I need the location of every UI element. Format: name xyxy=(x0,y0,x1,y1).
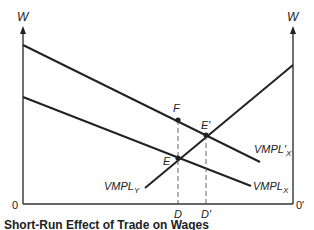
vmpl-y-label: VMPLY xyxy=(104,180,140,195)
vmpl-x-prime-label: VMPL′X xyxy=(254,143,292,158)
vmpl-x-label: VMPLX xyxy=(253,180,289,195)
svg-text:VMPLX: VMPLX xyxy=(253,180,289,195)
figure-caption: Short-Run Effect of Trade on Wages xyxy=(4,218,314,230)
right-origin-label: 0′ xyxy=(296,199,304,211)
right-w-label: W xyxy=(287,10,300,24)
left-w-label: W xyxy=(17,10,30,24)
svg-text:VMPL′X: VMPL′X xyxy=(254,143,292,158)
left-origin-label: 0 xyxy=(12,199,18,211)
point-e xyxy=(175,155,180,160)
point-e-label: E xyxy=(163,155,171,167)
point-f-label: F xyxy=(173,102,181,114)
point-f xyxy=(175,117,180,122)
right-axis-arrow-icon xyxy=(290,26,296,34)
point-e-prime xyxy=(203,132,208,137)
vmpl-y-line xyxy=(145,65,293,188)
vmpl-x-prime-line xyxy=(23,45,260,162)
svg-text:VMPLY: VMPLY xyxy=(104,180,140,195)
left-axis-arrow-icon xyxy=(20,26,26,34)
labor-market-diagram: W W 0 0′ F E′ E D D′ VMPL′X VMPLX VMPLY xyxy=(0,0,314,230)
point-e-prime-label: E′ xyxy=(201,119,211,131)
